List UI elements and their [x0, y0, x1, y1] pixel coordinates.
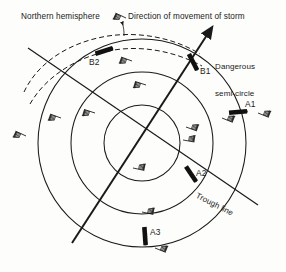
- wind-barb-12: [155, 242, 168, 253]
- wind-barb-11: [142, 206, 155, 215]
- wind-barb-0: [113, 13, 126, 24]
- wind-barb-4: [48, 114, 61, 124]
- dangerous-semicircle-line-1: Dangerous: [215, 63, 255, 72]
- storm-diagram-canvas: [0, 0, 286, 272]
- label-marker-a1: A1: [245, 100, 255, 109]
- label-marker-a3: A3: [150, 228, 160, 237]
- wind-barb-10: [183, 134, 196, 143]
- wind-barb-6: [186, 121, 199, 131]
- dangerous-semicircle-line-2: semi-circle: [215, 90, 255, 99]
- wind-barb-9: [133, 162, 146, 171]
- label-direction-of-movement: Direction of movement of storm: [128, 12, 245, 21]
- label-marker-b2: B2: [89, 58, 99, 67]
- wind-barb-3: [82, 109, 95, 119]
- label-marker-a2: A2: [196, 169, 206, 178]
- wind-barb-8: [258, 107, 271, 118]
- middle-circle: [71, 72, 213, 214]
- wind-barb-1: [119, 57, 132, 67]
- ship-marker-b2: [95, 46, 114, 56]
- wind-barb-2: [133, 81, 146, 91]
- storm-diagram: Northern hemisphere Direction of movemen…: [0, 0, 286, 272]
- label-northern-hemisphere: Northern hemisphere: [21, 12, 100, 21]
- leader-lines: [122, 22, 124, 36]
- label-marker-b1: B1: [200, 67, 210, 76]
- ship-marker-a3: [142, 227, 148, 246]
- wind-barb-5: [13, 131, 26, 142]
